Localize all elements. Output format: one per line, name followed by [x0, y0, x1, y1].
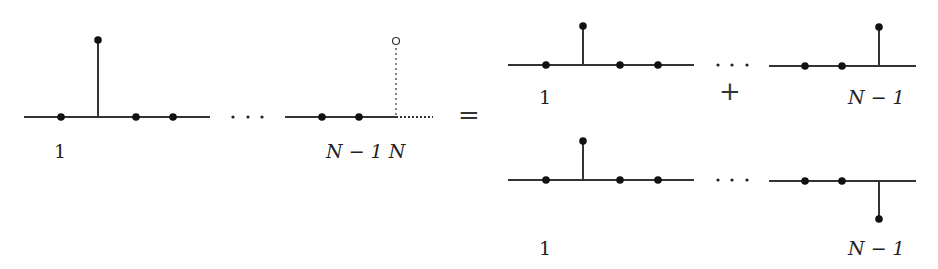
rhs-bottom-ellipsis-icon — [716, 178, 748, 181]
equals-sign: = — [458, 100, 480, 130]
lhs-ellipsis-icon — [231, 115, 263, 118]
rhs-top-last-segment — [769, 23, 916, 70]
plus-sign: + — [719, 76, 741, 106]
rhs-bottom-first-label: 1 — [539, 237, 551, 259]
lhs-first-segment — [24, 36, 210, 121]
rhs-bottom-first-segment — [508, 137, 694, 184]
lhs-last-segment — [285, 38, 433, 121]
lhs-last-label: N − 1 N — [326, 140, 405, 162]
rhs-bottom-last-segment — [769, 177, 916, 223]
lhs-first-label: 1 — [54, 140, 66, 162]
rhs-top-first-segment — [508, 22, 694, 69]
rhs-bottom-last-label: N − 1 — [848, 237, 905, 259]
rhs-top-last-label: N − 1 — [848, 86, 905, 108]
rhs-top-ellipsis-icon — [716, 63, 748, 66]
rhs-top-first-label: 1 — [539, 86, 551, 108]
diagram-canvas — [0, 0, 938, 269]
